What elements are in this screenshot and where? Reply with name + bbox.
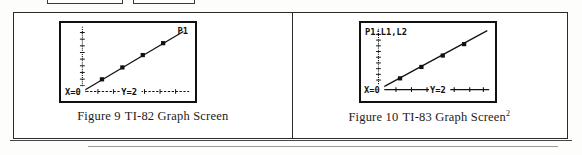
cropped-box-above-left	[47, 0, 123, 4]
ti83-trace-y-label: Y=2	[430, 85, 446, 95]
figure-9-caption: Figure 9TI-82 Graph Screen	[14, 109, 292, 124]
cropped-box-above-right	[133, 0, 195, 4]
figure-cell-9: P1 X=0 Y=2 Figure 9TI-82 Graph Screen	[14, 13, 292, 138]
page-bottom-rule	[10, 140, 572, 141]
ti82-screen-content: P1 X=0 Y=2	[61, 23, 195, 101]
figure-10-caption: Figure 10TI-83 Graph Screen2	[292, 109, 567, 125]
ti83-screen-content: P1:L1,L2 X=0 Y=2	[361, 23, 495, 101]
ti83-graph-screen: P1:L1,L2 X=0 Y=2	[359, 21, 497, 103]
scanned-page: P1 X=0 Y=2 Figure 9TI-82 Graph Screen	[0, 0, 582, 155]
ti82-plot-label: P1	[178, 26, 189, 36]
ti82-graph-screen: P1 X=0 Y=2	[59, 21, 197, 103]
figure-cell-10: P1:L1,L2 X=0 Y=2 Figure 10TI-83 Graph Sc…	[292, 13, 567, 138]
ti83-plot-label: P1:L1,L2	[364, 27, 406, 37]
figure-table: P1 X=0 Y=2 Figure 9TI-82 Graph Screen	[13, 12, 568, 139]
figure-9-number: Figure 9	[77, 109, 121, 123]
figure-10-footnote-marker: 2	[506, 109, 510, 118]
figure-10-number: Figure 10	[348, 110, 398, 124]
ti82-trace-y-label: Y=2	[121, 87, 137, 97]
ti82-trace-x-label: X=0	[65, 87, 81, 97]
ti83-trace-x-label: X=0	[364, 85, 380, 95]
figure-9-title: TI-82 Graph Screen	[125, 109, 229, 123]
figure-10-title: TI-83 Graph Screen	[402, 110, 506, 124]
page-bottom-rule-secondary	[88, 146, 558, 147]
